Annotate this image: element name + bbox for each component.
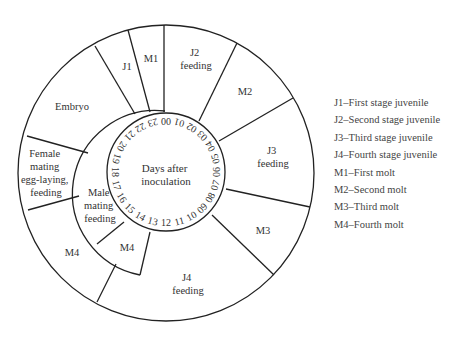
segment-label-j2: J2 feeding: [180, 47, 212, 71]
day-label: 08: [203, 190, 218, 204]
day-label: 04: [203, 140, 218, 154]
segment-label-m1: M1: [144, 53, 159, 64]
legend-item-m3: M3–Third molt: [334, 198, 440, 215]
divider-m3-j4: [212, 215, 274, 275]
legend-item-j3: J3–Third stage juvenile: [334, 129, 440, 146]
legend-item-m1: M1–First molt: [334, 164, 440, 181]
segment-label-male: Male mating feeding: [84, 187, 116, 224]
segment-label-embryo: Embryo: [55, 101, 89, 112]
segment-label-m4-male: M4: [120, 242, 135, 253]
day-label: 23: [147, 116, 160, 129]
day-label: 01: [173, 116, 186, 129]
center-label: Days after inoculation: [141, 162, 191, 187]
day-label: 03: [195, 129, 210, 144]
segment-label-j4: J4 feeding: [172, 272, 204, 296]
legend-item-j4: J4–Fourth stage juvenile: [334, 146, 440, 163]
day-label: 11: [173, 214, 185, 227]
divider-j2-m2: [199, 43, 237, 121]
day-label: 21: [123, 129, 138, 144]
day-label: 22: [134, 121, 148, 136]
legend-item-j2: J2–Second stage juvenile: [334, 111, 440, 128]
day-label: 07: [208, 179, 221, 192]
divider-m4-j4-inner: [140, 232, 150, 275]
segment-label-female: Female mating egg-laying, feeding: [21, 148, 71, 198]
segment-label-m4-female: M4: [65, 247, 80, 258]
day-label: 05: [208, 153, 221, 166]
legend-item-m2: M2–Second molt: [334, 181, 440, 198]
divider-female-m4: [28, 196, 79, 210]
day-label: 16: [115, 190, 130, 204]
day-label: 19: [110, 153, 123, 166]
segment-label-j3: J3 feeding: [257, 145, 289, 169]
segment-label-j1: J1: [122, 61, 131, 72]
divider-embryo-j1: [95, 46, 135, 114]
legend: J1–First stage juvenile J2–Second stage …: [334, 94, 440, 233]
legend-item-m4: M4–Fourth molt: [334, 216, 440, 233]
day-label: 20: [115, 140, 130, 154]
day-label: 06: [211, 167, 222, 177]
day-label: 14: [134, 209, 148, 224]
day-label: 13: [147, 214, 160, 227]
day-label: 12: [161, 217, 171, 228]
divider-m2-j3: [219, 98, 293, 141]
day-label: 15: [123, 201, 138, 216]
day-label: 10: [184, 209, 198, 224]
day-label: 09: [195, 201, 210, 216]
day-label: 00: [161, 116, 171, 127]
divider-j4-m4: [97, 264, 116, 302]
divider-male-m4: [97, 222, 124, 244]
day-label: 02: [184, 121, 198, 136]
legend-item-j1: J1–First stage juvenile: [334, 94, 440, 111]
day-label: 17: [110, 179, 123, 192]
day-label: 18: [110, 167, 121, 177]
divider-j3-m3: [226, 189, 310, 207]
segment-label-m2: M2: [238, 86, 253, 97]
segment-label-m3: M3: [256, 225, 271, 236]
